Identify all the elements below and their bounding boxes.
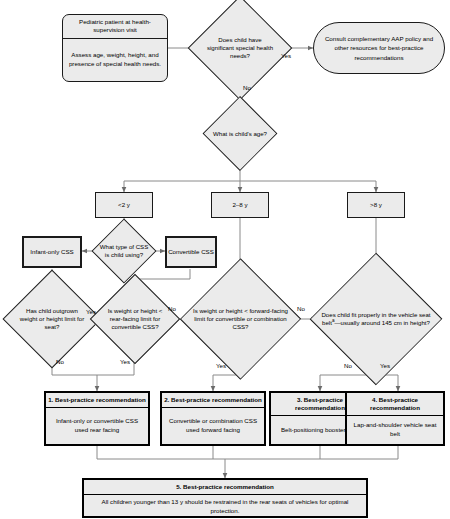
- edge-label-rear-facing-yes: Yes: [120, 358, 130, 365]
- edge-label-forward-facing-yes: Yes: [216, 362, 226, 369]
- edge-label-seat-belt-no: No: [344, 362, 352, 369]
- decision-forward-facing-limit-label: Is weight or height < forward-facing lim…: [187, 276, 294, 362]
- decision-seat-belt-fit-label: Does child fit properly in the vehicle s…: [316, 272, 436, 366]
- start-node: Pediatric patient at health-supervision …: [62, 14, 168, 82]
- recommendation-4: 4. Best-practice recommendation Lap-and-…: [345, 391, 445, 446]
- edge-label-special-needs-no: No: [243, 84, 251, 91]
- node-infant-only-css: Infant-only CSS: [22, 236, 82, 268]
- decision-css-type: What type of CSS is child using?: [97, 228, 151, 274]
- edge-label-forward-facing-no: No: [297, 305, 305, 312]
- edge-label-seat-belt-yes: Yes: [380, 362, 390, 369]
- decision-forward-facing-limit: Is weight or height < forward-facing lim…: [187, 276, 294, 362]
- edge-label-outgrown-no: No: [56, 358, 64, 365]
- age-bucket-2-to-8: 2–8 y: [211, 192, 269, 218]
- edge-label-rear-facing-no: No: [168, 305, 176, 312]
- recommendation-1-body: Infant-only or convertible CSS used rear…: [46, 408, 148, 444]
- recommendation-2-header: 2. Best-practice recommendation: [162, 393, 264, 408]
- recommendation-4-body: Lap-and-shoulder vehicle seat belt: [347, 416, 443, 444]
- decision-child-age-label: What is child's age?: [207, 107, 273, 160]
- node-infant-only-css-label: Infant-only CSS: [30, 248, 73, 256]
- decision-special-health-needs: Does child have significant special heal…: [203, 11, 277, 85]
- node-convertible-css: Convertible CSS: [165, 236, 217, 268]
- terminator-aap-consult: Consult complementary AAP policy and oth…: [313, 22, 445, 74]
- recommendation-1-header: 1. Best-practice recommendation: [46, 393, 148, 408]
- decision-css-type-label: What type of CSS is child using?: [97, 228, 151, 274]
- recommendation-5-body: All children younger than 13 y should be…: [84, 495, 366, 519]
- decision-seat-belt-fit: Does child fit properly in the vehicle s…: [316, 272, 436, 366]
- start-node-body: Assess age, weight, height, and presence…: [63, 39, 167, 81]
- recommendation-4-header: 4. Best-practice recommendation: [347, 393, 443, 416]
- age-bucket-under-2-label: <2 y: [118, 201, 130, 209]
- start-node-header: Pediatric patient at health-supervision …: [63, 15, 167, 39]
- decision-child-age: What is child's age?: [207, 107, 273, 160]
- age-bucket-under-2: <2 y: [95, 192, 153, 218]
- decision-outgrown-limits-label: Has child outgrown weight or height limi…: [17, 284, 87, 354]
- edge-label-special-needs-yes: Yes: [281, 52, 291, 59]
- recommendation-2: 2. Best-practice recommendation Converti…: [160, 391, 266, 446]
- terminator-aap-consult-label: Consult complementary AAP policy and oth…: [322, 34, 436, 62]
- decision-rear-facing-limit: Is weight or height < rear-facing limit …: [103, 287, 167, 351]
- seat-belt-fit-text-post: —usually around 145 cm in height?: [334, 319, 430, 326]
- decision-rear-facing-limit-label: Is weight or height < rear-facing limit …: [103, 287, 167, 351]
- decision-special-health-needs-label: Does child have significant special heal…: [203, 11, 277, 85]
- age-bucket-over-8: >8 y: [347, 192, 405, 218]
- recommendation-5: 5. Best-practice recommendation All chil…: [82, 478, 368, 518]
- recommendation-2-body: Convertible or combination CSS used forw…: [162, 408, 264, 444]
- edge-label-outgrown-yes: Yes: [86, 308, 96, 315]
- flowchart-canvas: Pediatric patient at health-supervision …: [0, 0, 450, 519]
- recommendation-5-header: 5. Best-practice recommendation: [84, 480, 366, 495]
- recommendation-1: 1. Best-practice recommendation Infant-o…: [44, 391, 150, 446]
- age-bucket-2-to-8-label: 2–8 y: [232, 201, 247, 209]
- age-bucket-over-8-label: >8 y: [370, 201, 382, 209]
- node-convertible-css-label: Convertible CSS: [168, 248, 214, 256]
- decision-outgrown-limits: Has child outgrown weight or height limi…: [17, 284, 87, 354]
